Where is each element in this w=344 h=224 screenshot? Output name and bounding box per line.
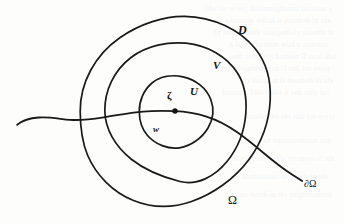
figure-root: a noitcnuf cimohpromoloh yreve rof taht … — [0, 0, 344, 224]
label-inner-domain-U: U — [190, 86, 198, 97]
label-center-point-zeta: ζ — [167, 90, 172, 101]
label-outer-domain-D: D — [238, 24, 247, 36]
diagram-canvas — [0, 0, 344, 224]
label-inner-point-w: w — [153, 125, 159, 134]
label-region-omega: Ω — [228, 194, 237, 206]
center-point-dot — [172, 108, 177, 113]
boundary-curve — [17, 111, 302, 181]
label-boundary-d-omega: ∂Ω — [304, 179, 316, 189]
label-middle-domain-V: V — [213, 60, 220, 71]
